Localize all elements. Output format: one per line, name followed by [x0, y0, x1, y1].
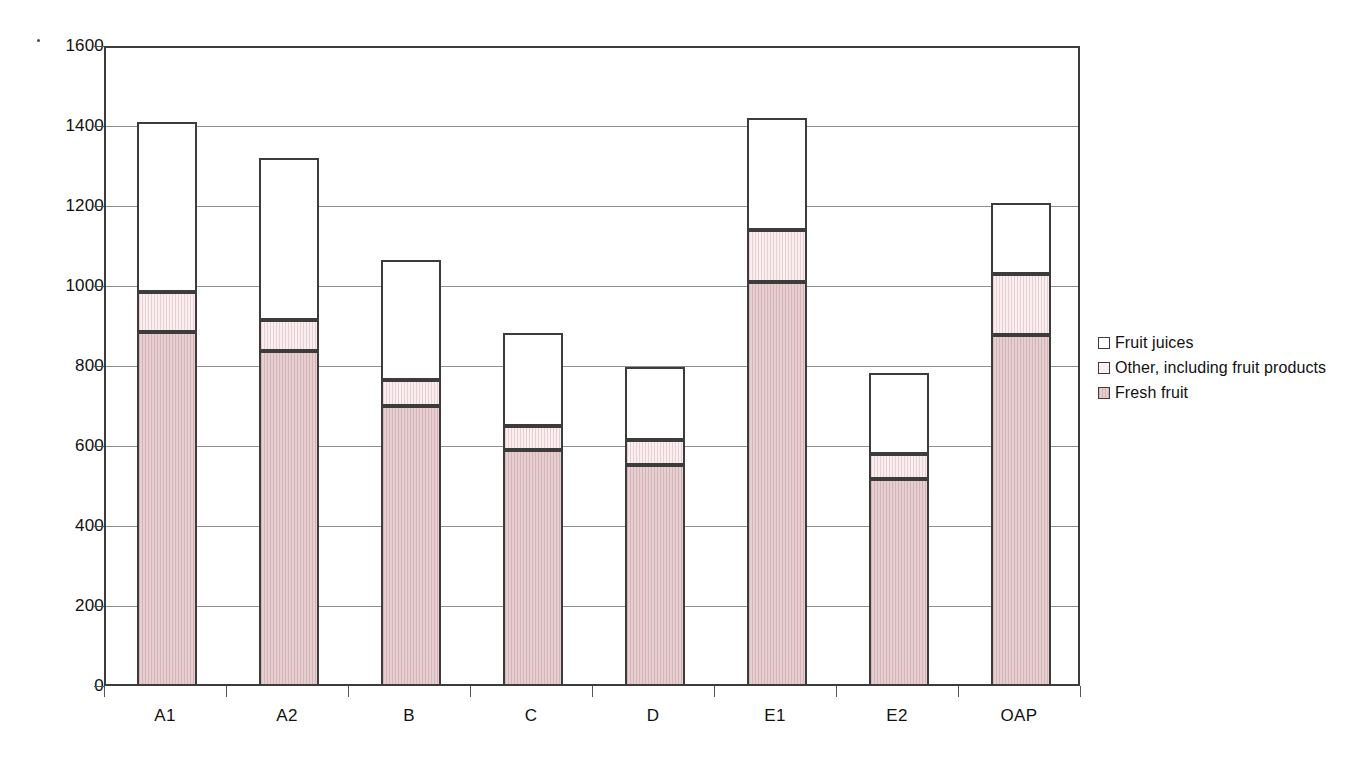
x-axis-tick-mark [714, 686, 715, 697]
y-axis: 16001400120010008006004002000 [0, 0, 104, 761]
bar-segment [869, 373, 929, 454]
legend-label: Fruit juices [1115, 334, 1194, 351]
bar-segment [747, 118, 807, 230]
bar-segment [381, 380, 441, 406]
x-axis-tick-label-c: C [525, 706, 538, 725]
bar-group-e1 [747, 46, 807, 686]
gridline [106, 526, 1078, 527]
y-axis-tick-mark [94, 446, 104, 447]
bar-group-a2 [259, 46, 319, 686]
y-axis-tick-mark [94, 526, 104, 527]
y-axis-tick-label: 600 [18, 437, 104, 454]
legend-swatch-icon [1098, 337, 1110, 349]
x-axis-tick-label-a2: A2 [276, 706, 297, 725]
legend-label: Fresh fruit [1115, 384, 1188, 401]
legend-swatch-icon [1098, 362, 1110, 374]
x-axis-tick-label-b: B [403, 706, 415, 725]
x-axis-tick-label-e2: E2 [886, 706, 907, 725]
gridline [106, 286, 1078, 287]
bar-segment [869, 454, 929, 479]
stacked-bar-chart: 16001400120010008006004002000 A1A2BCDE1E… [0, 0, 1347, 761]
legend-item: Other, including fruit products [1098, 355, 1338, 380]
bar-segment [137, 332, 197, 686]
y-axis-tick-label: 0 [18, 677, 104, 694]
legend-label: Other, including fruit products [1115, 359, 1326, 376]
y-axis-tick-mark [94, 606, 104, 607]
bar-segment [747, 282, 807, 686]
bar-segment [991, 203, 1051, 274]
x-axis-tick-mark [104, 686, 105, 697]
y-axis-tick-label: 1400 [18, 117, 104, 134]
bar-segment [869, 479, 929, 686]
y-axis-tick-mark [94, 366, 104, 367]
bar-segment [137, 292, 197, 332]
x-axis-tick-mark [836, 686, 837, 697]
legend-item: Fruit juices [1098, 330, 1338, 355]
x-axis-tick-mark [348, 686, 349, 697]
x-axis-tick-mark [226, 686, 227, 697]
bar-segment [503, 450, 563, 686]
y-axis-tick-label: 800 [18, 357, 104, 374]
bar-segment [747, 230, 807, 282]
bar-segment [625, 440, 685, 465]
x-axis-tick-mark [592, 686, 593, 697]
bar-segment [259, 351, 319, 686]
bar-segment [137, 122, 197, 292]
bar-segment [259, 320, 319, 351]
x-axis-tick-label-a1: A1 [154, 706, 175, 725]
x-axis-tick-label-e1: E1 [764, 706, 785, 725]
gridline [106, 366, 1078, 367]
x-axis-tick-mark [1080, 686, 1081, 697]
y-axis-tick-label: 1600 [18, 37, 104, 54]
y-axis-tick-label: 1200 [18, 197, 104, 214]
bar-segment [625, 465, 685, 686]
x-axis-tick-label-d: D [647, 706, 660, 725]
bar-segment [381, 406, 441, 686]
y-axis-tick-label: 1000 [18, 277, 104, 294]
bar-group-d [625, 46, 685, 686]
y-axis-tick-mark [94, 206, 104, 207]
bar-segment [503, 333, 563, 426]
x-axis-tick-mark [958, 686, 959, 697]
bar-group-c [503, 46, 563, 686]
bar-segment [259, 158, 319, 320]
bar-segment [625, 367, 685, 440]
x-axis: A1A2BCDE1E2OAP [104, 686, 1080, 746]
chart-legend: Fruit juicesOther, including fruit produ… [1098, 330, 1338, 405]
bar-segment [991, 274, 1051, 335]
y-axis-tick-label: 200 [18, 597, 104, 614]
plot-area [104, 46, 1080, 686]
x-axis-tick-label-oap: OAP [1001, 706, 1038, 725]
bar-group-e2 [869, 46, 929, 686]
y-axis-tick-label: 400 [18, 517, 104, 534]
bar-group-oap [991, 46, 1051, 686]
bar-group-a1 [137, 46, 197, 686]
y-axis-tick-mark [94, 686, 104, 687]
legend-item: Fresh fruit [1098, 380, 1338, 405]
gridline [106, 206, 1078, 207]
gridline [106, 606, 1078, 607]
y-axis-tick-mark [94, 286, 104, 287]
y-axis-tick-mark [94, 46, 104, 47]
gridline [106, 126, 1078, 127]
bar-segment [503, 426, 563, 450]
bar-segment [991, 335, 1051, 686]
bar-group-b [381, 46, 441, 686]
bar-segment [381, 260, 441, 380]
legend-swatch-icon [1098, 387, 1110, 399]
x-axis-tick-mark [470, 686, 471, 697]
y-axis-tick-mark [94, 126, 104, 127]
gridline [106, 446, 1078, 447]
